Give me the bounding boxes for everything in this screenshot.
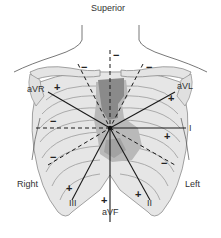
lead-III-minus-sign: −: [146, 62, 152, 73]
lead-I-label: I: [189, 124, 192, 133]
superior-label: Superior: [91, 4, 125, 13]
origin-point: [108, 126, 112, 130]
lead-aVL-label: aVL: [177, 82, 193, 91]
neck-outline-right: [14, 25, 82, 72]
lead-III-label: III: [69, 199, 77, 208]
aVL-minus-sign: −: [50, 152, 56, 163]
lead-I-plus-sign: +: [164, 131, 170, 142]
lead-II-plus-sign: +: [135, 189, 141, 200]
lead-II-minus-sign: −: [81, 62, 87, 73]
lead-aVF-label: aVF: [102, 208, 119, 217]
left-side-label: Left: [185, 180, 200, 189]
aVL-plus-sign: +: [168, 93, 174, 104]
thorax-illustration: [0, 0, 221, 238]
lead-III-plus-sign: +: [66, 183, 72, 194]
aVR-plus-sign: +: [54, 82, 60, 93]
aVR-minus-sign: −: [161, 158, 167, 169]
hexaxial-diagram: Superior Right Left aVR aVL I II III aVF…: [0, 0, 221, 238]
aVF-plus-sign: +: [101, 195, 107, 206]
aVF-minus-sign: −: [113, 50, 119, 61]
lead-aVR-label: aVR: [27, 85, 45, 94]
right-side-label: Right: [17, 180, 38, 189]
lead-I-minus-sign: −: [50, 116, 56, 127]
lead-II-label: II: [147, 199, 152, 208]
